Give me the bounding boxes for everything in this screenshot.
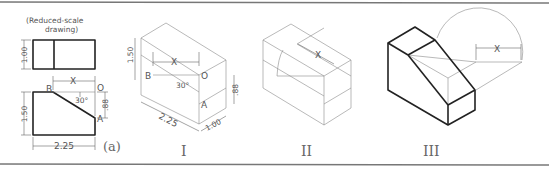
point-a-label: A <box>97 114 104 124</box>
step-1-angle: 30° <box>176 81 190 90</box>
point-o-label: O <box>97 83 104 93</box>
orthographic-views: (Reduced-scale drawing) 1.00 X B O A 30°… <box>20 16 121 154</box>
distance-x-label: X <box>70 76 76 86</box>
bottom-border <box>0 164 549 165</box>
step-2-label: II <box>301 143 312 159</box>
step-1-point-b: B <box>145 71 151 81</box>
step-1-height: 1.50 <box>126 46 135 63</box>
technical-drawing: (Reduced-scale drawing) 1.00 X B O A 30°… <box>0 0 549 173</box>
step-3-solid: X III <box>388 8 523 159</box>
note-line-2: drawing) <box>45 25 78 34</box>
depth-dimension: 1.00 <box>20 46 29 63</box>
point-b-label: B <box>46 84 52 94</box>
step-2-distance-x: X <box>315 50 321 60</box>
top-view <box>33 40 95 69</box>
offset-dimension: .88 <box>101 99 110 111</box>
step-2-box: X II <box>263 24 351 159</box>
step-3-distance-x: X <box>494 44 500 54</box>
step-1-label: I <box>181 143 187 159</box>
width-dimension: 2.25 <box>54 141 74 151</box>
angle-label: 30° <box>75 96 89 105</box>
step-1-width: 2.25 <box>157 111 179 129</box>
step-1-offset: .88 <box>231 84 240 96</box>
step-1-distance-x: X <box>171 57 177 67</box>
step-3-label: III <box>423 143 440 159</box>
note-line-1: (Reduced-scale <box>26 16 84 25</box>
top-border <box>0 2 549 3</box>
step-1-point-a: A <box>201 100 208 110</box>
step-1-box: X B O A 30° 1.50 .88 2.25 1.00 I <box>126 23 240 159</box>
part-label: (a) <box>103 139 121 154</box>
height-dimension: 1.50 <box>20 105 29 122</box>
step-1-point-o: O <box>201 71 208 81</box>
